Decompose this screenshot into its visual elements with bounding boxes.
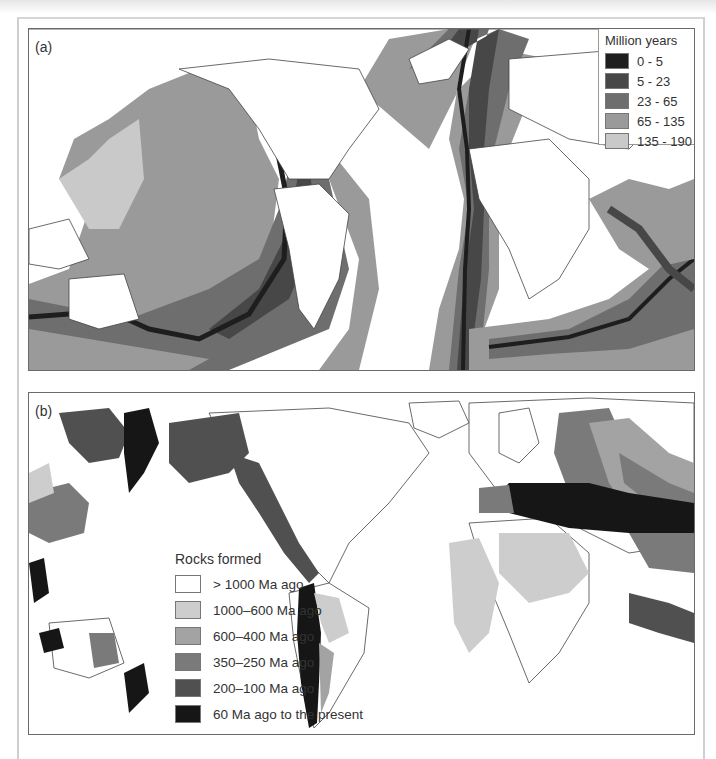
page-edge-shade	[0, 0, 716, 14]
age-swatch-65-135	[605, 113, 629, 129]
panel-b-label: (b)	[35, 403, 52, 419]
age-legend: Million years 0 - 5 5 - 23 23 - 65 65 - …	[598, 29, 694, 145]
age-swatch-23-65	[605, 93, 629, 109]
age-legend-item: 0 - 5	[605, 51, 694, 71]
rock-age-legend-item: 60 Ma ago to the present	[175, 701, 435, 727]
panel-a-label: (a)	[35, 39, 52, 55]
rock-age-legend-title: Rocks formed	[175, 551, 435, 567]
age-swatch-5-23	[605, 73, 629, 89]
age-swatch-0-5	[605, 53, 629, 69]
age-legend-label: 5 - 23	[637, 74, 670, 89]
ocean-floor-age-map: (a) Million years 0 - 5 5 - 23 23 - 65 6…	[28, 28, 695, 371]
rock-swatch-1000-600	[175, 601, 201, 619]
age-swatch-135-190	[605, 133, 629, 149]
rock-age-legend-label: 600–400 Ma ago	[213, 629, 314, 644]
age-legend-label: 65 - 135	[637, 114, 685, 129]
rock-age-legend-item: 1000–600 Ma ago	[175, 597, 435, 623]
age-legend-title: Million years	[605, 33, 694, 48]
age-legend-label: 135 - 190	[637, 134, 692, 149]
rock-swatch-gt-1000	[175, 575, 201, 593]
rock-age-legend-label: 1000–600 Ma ago	[213, 603, 322, 618]
rock-age-legend-item: 350–250 Ma ago	[175, 649, 435, 675]
rock-age-legend-item: > 1000 Ma ago	[175, 571, 435, 597]
rock-age-legend: Rocks formed > 1000 Ma ago 1000–600 Ma a…	[175, 551, 435, 727]
rock-swatch-200-100	[175, 679, 201, 697]
rock-age-legend-item: 200–100 Ma ago	[175, 675, 435, 701]
continental-rock-age-map: (b) Rocks formed > 1000 Ma ago 1000–600 …	[28, 392, 695, 735]
rock-age-legend-item: 600–400 Ma ago	[175, 623, 435, 649]
rock-swatch-600-400	[175, 627, 201, 645]
age-legend-item: 5 - 23	[605, 71, 694, 91]
ocean-floor-map-graphic	[29, 29, 694, 370]
rock-age-legend-label: 350–250 Ma ago	[213, 655, 314, 670]
age-legend-label: 23 - 65	[637, 94, 677, 109]
age-legend-label: 0 - 5	[637, 54, 663, 69]
age-legend-item: 65 - 135	[605, 111, 694, 131]
rock-swatch-60-present	[175, 705, 201, 723]
age-legend-item: 135 - 190	[605, 131, 694, 151]
age-legend-item: 23 - 65	[605, 91, 694, 111]
rock-age-legend-label: 200–100 Ma ago	[213, 681, 314, 696]
rock-age-legend-label: > 1000 Ma ago	[213, 577, 303, 592]
rock-age-legend-label: 60 Ma ago to the present	[213, 707, 363, 722]
rock-swatch-350-250	[175, 653, 201, 671]
